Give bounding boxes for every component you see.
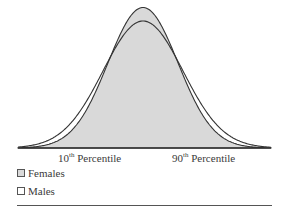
males-swatch-icon <box>17 187 25 195</box>
legend-item-males: Males <box>17 185 55 197</box>
tick-90th-percentile: 90th Percentile <box>172 152 235 164</box>
legend-label-females: Females <box>28 167 65 179</box>
legend-label-males: Males <box>28 185 55 197</box>
tick-10th-percentile: 10th Percentile <box>58 152 121 164</box>
legend-item-females: Females <box>17 167 65 179</box>
bottom-rule <box>17 205 272 206</box>
females-swatch-icon <box>17 169 25 177</box>
females-curve <box>18 8 271 149</box>
